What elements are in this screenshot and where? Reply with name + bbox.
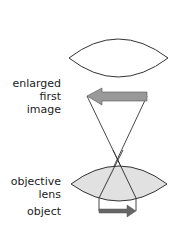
enlarged-image-label: enlarged first image	[12, 77, 61, 116]
object-label: object	[27, 205, 61, 218]
label-line: image	[12, 103, 61, 116]
label-line: first	[12, 90, 61, 103]
enlarged-image-arrow	[87, 88, 147, 105]
label-line: enlarged	[12, 77, 61, 90]
objective-lens-label: objective lens	[11, 175, 61, 201]
label-line: lens	[11, 188, 61, 201]
object-arrow	[99, 205, 136, 217]
upper-lens	[69, 39, 168, 77]
label-line: objective	[11, 175, 61, 188]
objective-lens	[71, 166, 167, 201]
